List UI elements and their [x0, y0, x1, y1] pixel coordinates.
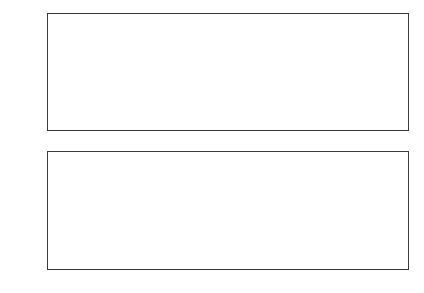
bottom-plot-frame — [48, 152, 409, 270]
bottom-panel — [48, 152, 409, 270]
top-plot-frame — [48, 14, 409, 131]
chart-svg — [0, 0, 424, 293]
figure-container — [0, 0, 424, 293]
top-panel — [48, 14, 409, 131]
